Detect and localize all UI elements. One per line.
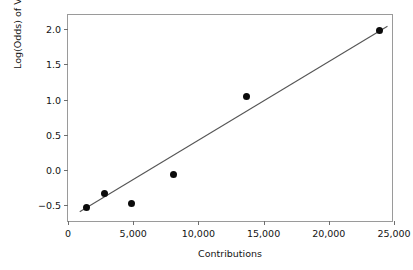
y-tick-mark bbox=[64, 64, 68, 65]
y-tick-mark bbox=[64, 170, 68, 171]
data-points-layer bbox=[68, 15, 392, 221]
y-tick-mark bbox=[64, 100, 68, 101]
x-axis-title: Contributions bbox=[67, 248, 393, 259]
y-tick-label: 0.5 bbox=[46, 129, 61, 140]
y-axis-title: Log(Odds) of Vote With bbox=[11, 0, 25, 118]
y-tick-label: 1.0 bbox=[46, 94, 61, 105]
x-tick-label: 20,000 bbox=[312, 228, 345, 239]
data-point bbox=[83, 204, 90, 211]
y-tick-label: −0.5 bbox=[38, 200, 61, 211]
y-tick-mark bbox=[64, 29, 68, 30]
x-tick-mark bbox=[133, 221, 134, 225]
x-tick-label: 0 bbox=[65, 228, 71, 239]
y-tick-mark bbox=[64, 205, 68, 206]
x-tick-label: 15,000 bbox=[247, 228, 280, 239]
data-point bbox=[101, 190, 108, 197]
data-point bbox=[170, 171, 177, 178]
data-point bbox=[376, 27, 383, 34]
x-tick-label: 5,000 bbox=[120, 228, 147, 239]
data-point bbox=[128, 200, 135, 207]
data-point bbox=[243, 93, 250, 100]
x-tick-mark bbox=[329, 221, 330, 225]
y-tick-mark bbox=[64, 135, 68, 136]
x-tick-mark bbox=[198, 221, 199, 225]
x-tick-mark bbox=[68, 221, 69, 225]
x-tick-label: 25,000 bbox=[377, 228, 410, 239]
y-tick-label: 1.5 bbox=[46, 59, 61, 70]
y-tick-label: 0.0 bbox=[46, 165, 61, 176]
chart-figure: −0.50.00.51.01.52.0 05,00010,00015,00020… bbox=[0, 0, 413, 270]
x-tick-mark bbox=[264, 221, 265, 225]
x-tick-mark bbox=[394, 221, 395, 225]
x-tick-label: 10,000 bbox=[182, 228, 215, 239]
y-tick-label: 2.0 bbox=[46, 24, 61, 35]
plot-area: −0.50.00.51.01.52.0 05,00010,00015,00020… bbox=[67, 14, 393, 222]
